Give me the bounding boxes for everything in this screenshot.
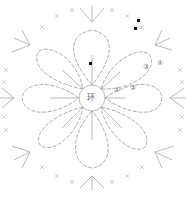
start-markers: [89, 19, 140, 65]
center-label: 环: [87, 94, 95, 102]
round-marker-4: ④: [157, 60, 163, 67]
round-marker-1: ①: [114, 87, 120, 94]
diagram-caption: · · · · · · · · · ·: [50, 197, 140, 202]
round-marker-2: ②: [130, 85, 136, 92]
round-marker-3: ③: [143, 64, 149, 71]
